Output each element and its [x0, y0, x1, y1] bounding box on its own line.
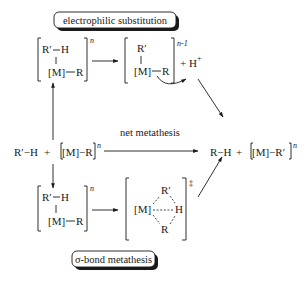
es-intermediate-charge: n-1 — [177, 39, 188, 48]
es-adduct-rprime: R′ — [42, 43, 52, 55]
sbm-adduct-rprime: R′ — [42, 191, 52, 203]
sigma-bond-metathesis-text: σ-bond metathesis — [75, 254, 152, 265]
sbm-adduct-charge: n — [90, 184, 94, 193]
product-charge: n — [293, 141, 297, 150]
proton-charge: + — [197, 54, 202, 63]
sbm-adduct-h: H — [61, 191, 69, 203]
reactant-plus: + — [44, 146, 50, 158]
products: R−H + [M]−R′ n — [210, 141, 297, 159]
ts-r: R — [161, 223, 169, 235]
ts-double-dagger: ‡ — [189, 179, 193, 188]
es-intermediate-metal: [M] — [134, 65, 151, 77]
es-adduct-charge: n — [90, 36, 94, 45]
ts-h: H — [175, 203, 183, 215]
sbm-adduct-complex: R′ H [M] R n — [38, 184, 94, 231]
sbm-adduct-metal: [M] — [48, 215, 65, 227]
ts-rprime: R′ — [161, 184, 171, 196]
es-adduct-complex: R′ H [M] R n — [38, 36, 94, 81]
es-adduct-h: H — [61, 43, 69, 55]
reactants: R′−H + [M]−R n — [14, 141, 101, 159]
reactant-rprime-h: R′−H — [14, 146, 38, 158]
product-metal-rprime: [M]−R′ — [252, 146, 285, 158]
sbm-adduct-r: R — [76, 215, 84, 227]
es-intermediate-complex: R′ [M] R n-1 + H + — [125, 38, 202, 84]
es-adduct-r: R — [76, 66, 84, 78]
es-intermediate-rprime: R′ — [137, 42, 147, 54]
proton-release: + H — [180, 57, 197, 69]
reaction-mechanism-diagram: electrophilic substitution R′ H [M] R n … — [0, 0, 308, 283]
es-adduct-metal: [M] — [48, 66, 65, 78]
product-plus: + — [236, 146, 242, 158]
product-r-h: R−H — [210, 146, 232, 158]
electrophilic-substitution-label: electrophilic substitution — [54, 12, 179, 31]
arrow-es-to-products — [198, 79, 223, 117]
net-metathesis-label: net metathesis — [120, 127, 180, 138]
arrow-sbm-to-products — [198, 157, 222, 197]
reactant-metal-r: [M]−R — [62, 146, 93, 158]
sbm-transition-state: [M] R′ H R ‡ — [126, 178, 193, 240]
sigma-bond-metathesis-label: σ-bond metathesis — [72, 251, 158, 270]
reactant-charge: n — [97, 141, 101, 150]
ts-metal: [M] — [134, 203, 151, 215]
electrophilic-substitution-text: electrophilic substitution — [63, 15, 168, 26]
es-intermediate-r: R — [162, 65, 170, 77]
